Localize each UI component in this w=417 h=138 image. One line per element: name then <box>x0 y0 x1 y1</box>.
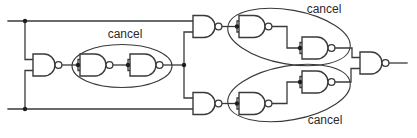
cancel-label-bottom-right: cancel <box>308 113 343 127</box>
circuit-canvas: cancel cancel cancel <box>0 0 417 138</box>
junction-dot <box>126 63 130 67</box>
junction-dot <box>298 46 302 50</box>
bottom-inverter-1-icon <box>239 93 265 115</box>
cancel-label-top-right: cancel <box>307 2 342 16</box>
top-inverter-link-wire <box>272 27 300 49</box>
junction-dot <box>298 80 302 84</box>
junction-dot <box>23 107 27 111</box>
left-inverter-2-icon <box>130 54 156 76</box>
bottom-inverter-2-bubble-icon <box>328 79 335 86</box>
top-inverter-1-icon <box>239 16 265 38</box>
cancel-label-left: cancel <box>108 27 143 41</box>
input-nand-bubble-icon <box>55 62 62 69</box>
junction-dot <box>235 101 239 105</box>
gates <box>33 16 389 115</box>
bottom-inverter-2-icon <box>302 71 328 93</box>
top-inverter-2-icon <box>302 37 328 59</box>
top-nand-gate-icon <box>193 16 215 38</box>
top-tap-wire <box>25 21 33 60</box>
left-inverter-1-icon <box>80 54 106 76</box>
bottom-tap-wire <box>25 71 33 110</box>
junction-dot <box>182 63 186 67</box>
junction-dot <box>76 63 80 67</box>
bottom-inverter-1-bubble-icon <box>265 100 272 107</box>
top-inverter-2-bubble-icon <box>328 45 335 52</box>
junction-dot <box>23 19 27 23</box>
logic-circuit-diagram: cancel cancel cancel <box>0 0 417 138</box>
bottom-inverter-link-wire <box>272 82 300 104</box>
input-nand-gate-icon <box>33 54 55 76</box>
left-inverter-1-bubble-icon <box>106 62 113 69</box>
bottom-nand-bubble-icon <box>215 100 222 107</box>
output-nand-gate-icon <box>360 52 382 74</box>
junction-dot <box>235 24 239 28</box>
top-nand-bubble-icon <box>215 23 222 30</box>
left-inverter-2-bubble-icon <box>156 62 163 69</box>
output-nand-bubble-icon <box>382 60 389 67</box>
top-inverter-1-bubble-icon <box>265 23 272 30</box>
bottom-branch-to-output-wire <box>335 69 360 83</box>
bottom-nand-gate-icon <box>193 93 215 115</box>
